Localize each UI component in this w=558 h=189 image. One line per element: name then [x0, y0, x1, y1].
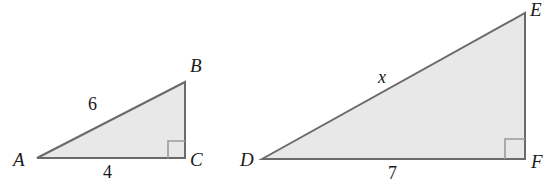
vertex-label-b: B — [190, 56, 202, 75]
side-length-ac: 4 — [103, 163, 112, 181]
side-length-de: x — [378, 68, 386, 86]
vertex-label-e: E — [530, 0, 542, 19]
vertex-label-c: C — [190, 150, 203, 169]
figure-canvas — [0, 0, 558, 189]
vertex-label-f: F — [531, 152, 543, 171]
triangle-def-shape — [262, 13, 525, 159]
side-length-df: 7 — [388, 164, 397, 182]
triangle-abc — [37, 82, 185, 158]
geometry-figure: A B C 6 4 D E F x 7 — [0, 0, 558, 189]
vertex-label-d: D — [240, 150, 254, 169]
side-length-ab: 6 — [88, 95, 97, 113]
triangle-def — [262, 13, 525, 159]
vertex-label-a: A — [13, 150, 25, 169]
triangle-abc-shape — [37, 82, 185, 158]
